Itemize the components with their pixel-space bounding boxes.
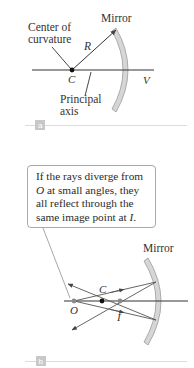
vertex-label: V [143,74,151,86]
object-point-label: O [70,304,78,316]
mirror-label-b: Mirror [143,242,174,254]
center-leader-line [52,47,71,69]
mirror-label-a: Mirror [101,12,132,24]
center-point-label-a: C [68,73,76,85]
ray-reflected-upper [72,282,156,330]
callout-pointer [43,228,70,298]
panel-a: Mirror Center of curvature R C V Princip… [25,12,187,130]
radius-arrow [72,30,116,70]
radius-label: R [83,40,91,52]
panel-tag-b: b [39,357,44,366]
axis-label-line2: axis [60,105,79,117]
callout-line-3: all reflect through the [36,197,150,211]
callout-line-4-text: same image point at [36,211,130,223]
ray-arrow-upper [110,289,124,292]
image-point-dot [118,299,123,304]
callout-line-4-end: . [133,211,136,223]
callout-line-1: If the rays diverge from [36,170,150,184]
panel-tag-a: a [38,121,43,130]
callout-line-4: same image point at I. [36,211,150,225]
center-point-dot-b [100,299,105,304]
callout-symbol-o: O [36,184,44,196]
callout-line-2: O at small angles, they [36,184,150,198]
center-point-dot-a [70,68,75,73]
center-point-label-b: C [99,283,107,295]
object-point-dot [72,299,77,304]
center-label-line2: curvature [28,33,71,45]
panel-b: Mirror C O I b [25,228,188,366]
callout-line-2-text: at small angles, they [44,184,139,196]
image-point-label: I [116,311,122,323]
center-label-line1: Center of [28,21,71,33]
explanation-callout: If the rays diverge from O at small angl… [27,165,156,228]
